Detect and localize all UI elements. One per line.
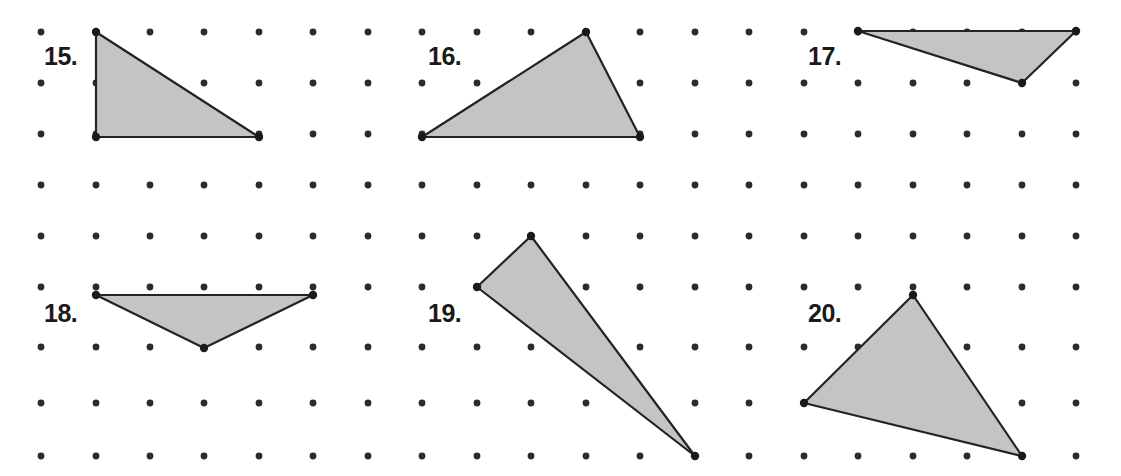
triangle xyxy=(477,236,695,456)
triangle-vertex-dot xyxy=(527,232,535,240)
problem-number-label: 17. xyxy=(808,44,841,69)
triangle-vertex-dot xyxy=(636,133,644,141)
triangle xyxy=(858,31,1076,83)
triangle xyxy=(96,32,259,137)
triangle-vertex-dot xyxy=(309,291,317,299)
triangle-vertex-dot xyxy=(1018,79,1026,87)
triangle xyxy=(96,295,313,348)
triangle-vertex-dot xyxy=(200,344,208,352)
geoboard-worksheet: 15.16.17.18.19.20. xyxy=(0,0,1121,476)
triangle-vertex-dot xyxy=(1018,452,1026,460)
triangle-vertex-dot xyxy=(92,28,100,36)
triangle-vertex-dot xyxy=(92,133,100,141)
triangle-vertex-dot xyxy=(800,399,808,407)
problem-shape-19 xyxy=(473,232,699,460)
triangle-vertex-dot xyxy=(255,133,263,141)
triangle-vertex-dot xyxy=(854,27,862,35)
triangle-vertex-dot xyxy=(582,28,590,36)
triangle-vertex-dot xyxy=(691,452,699,460)
problem-number-label: 19. xyxy=(428,301,461,326)
problem-number-label: 15. xyxy=(44,44,77,69)
triangle-vertex-dot xyxy=(473,283,481,291)
triangle-vertex-dot xyxy=(1072,27,1080,35)
problem-number-label: 16. xyxy=(428,44,461,69)
problem-shape-17 xyxy=(854,27,1080,87)
problem-number-label: 20. xyxy=(808,301,841,326)
problem-number-label: 18. xyxy=(44,301,77,326)
problem-shape-18 xyxy=(92,291,317,352)
triangle-shapes-layer xyxy=(0,0,1121,476)
problem-shape-15 xyxy=(92,28,263,141)
triangle-vertex-dot xyxy=(92,291,100,299)
triangle-vertex-dot xyxy=(909,291,917,299)
triangle-vertex-dot xyxy=(418,133,426,141)
